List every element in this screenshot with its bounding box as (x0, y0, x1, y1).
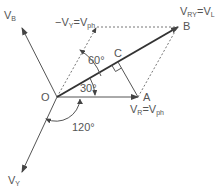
label-neg-vy: −VY=Vph (55, 17, 95, 31)
arc-120-start-arrow (77, 99, 83, 104)
label-point-o: O (41, 92, 50, 103)
label-angle-120: 120° (72, 122, 95, 133)
label-angle-60: 60° (88, 55, 105, 66)
label-vy: VY (8, 175, 20, 189)
label-vry: VRY=VL (180, 6, 215, 20)
perpendicular-ac (118, 62, 138, 97)
phasor-vy (22, 97, 57, 172)
label-point-b: B (183, 21, 190, 32)
label-vb: VB (4, 10, 16, 24)
label-angle-30: 30° (80, 83, 97, 94)
phasor-vb (22, 28, 57, 97)
label-point-a: A (143, 92, 150, 103)
phasor-vry (57, 27, 178, 97)
label-point-c: C (114, 48, 122, 59)
label-vr: VR=Vph (130, 104, 164, 118)
